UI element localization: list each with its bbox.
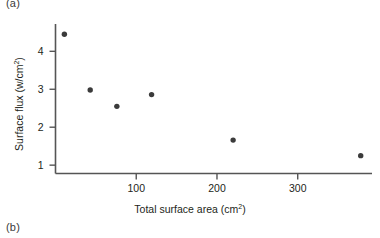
y-tick-label-2: 2 [28,121,44,133]
y-axis-title-base: Surface flux (w/cm [13,65,25,151]
x-tick-label-300: 300 [289,182,307,194]
y-tick-label-4: 4 [28,45,44,57]
x-axis-title-superscript: 2 [238,203,242,210]
data-point-5 [230,137,235,142]
data-point-2 [88,87,93,92]
data-point-1 [62,32,67,37]
figure-panel-a: (a) 100200300 1234 Total surface area (c… [0,0,380,238]
y-tick-label-3: 3 [28,83,44,95]
x-tick-label-200: 200 [208,182,226,194]
panel-letter-b: (b) [6,221,20,233]
tick-marks [50,51,298,179]
data-points [62,32,364,159]
y-axis-title: Surface flux (w/cm2) [13,24,25,184]
y-axis-title-superscript: 2 [13,61,20,65]
axes [56,24,373,174]
data-point-4 [149,92,154,97]
x-tick-label-100: 100 [127,182,145,194]
data-point-3 [114,104,119,109]
data-point-6 [358,153,363,158]
x-axis-title: Total surface area (cm2) [0,203,380,215]
x-axis-title-base: Total surface area (cm [134,203,238,215]
x-axis-title-tail: ) [242,203,246,215]
y-tick-label-1: 1 [28,159,44,171]
